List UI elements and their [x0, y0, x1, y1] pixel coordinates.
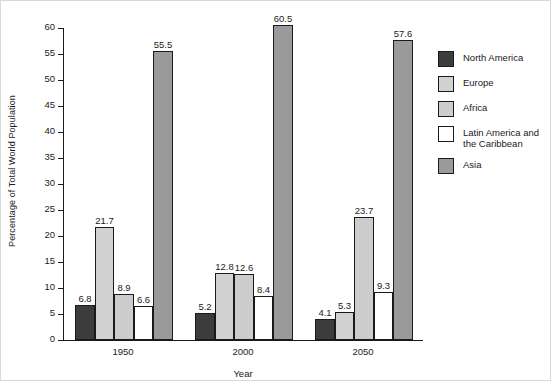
y-axis-tick-label: 30 [44, 177, 55, 188]
bar: 23.7 [354, 217, 374, 340]
plot-area: 051015202530354045505560 6.821.78.96.655… [63, 28, 423, 340]
bar-value-label: 4.1 [318, 307, 331, 318]
bar: 5.3 [335, 312, 355, 340]
y-axis-tick-mark [58, 106, 63, 107]
y-axis-tick-label: 50 [44, 73, 55, 84]
y-axis-tick-label: 5 [50, 307, 55, 318]
y-axis-tick-label: 35 [44, 151, 55, 162]
y-axis-tick-label: 0 [50, 333, 55, 344]
bar: 12.8 [215, 273, 235, 340]
y-axis-tick-label: 20 [44, 229, 55, 240]
y-axis-tick-label: 40 [44, 125, 55, 136]
bar: 4.1 [315, 319, 335, 340]
y-axis-tick-mark [58, 132, 63, 133]
bar: 12.6 [234, 274, 254, 340]
bar-value-label: 21.7 [95, 215, 114, 226]
legend-swatch [438, 51, 454, 67]
bar-value-label: 8.9 [117, 282, 130, 293]
legend-label: Africa [463, 101, 487, 113]
bar: 6.6 [134, 306, 154, 340]
legend-item: Africa [438, 101, 546, 117]
x-axis-title: Year [233, 368, 252, 379]
bar: 9.3 [374, 292, 394, 340]
y-axis-tick-mark [58, 184, 63, 185]
y-axis-tick-label: 60 [44, 21, 55, 32]
legend-label: North America [463, 51, 523, 63]
bar: 55.5 [153, 51, 173, 340]
bar: 8.4 [254, 296, 274, 340]
x-axis-tick-label: 2000 [232, 346, 253, 357]
legend-label: Asia [463, 158, 481, 170]
y-axis-tick-mark [58, 262, 63, 263]
legend-label: Latin America andthe Caribbean [463, 126, 539, 149]
y-axis-tick-mark [58, 158, 63, 159]
y-axis-tick-mark [58, 54, 63, 55]
bar: 6.8 [75, 305, 95, 340]
bars-layer: 6.821.78.96.655.55.212.812.68.460.54.15.… [64, 28, 423, 340]
y-axis-tick-mark [58, 28, 63, 29]
legend-item: Europe [438, 76, 546, 92]
bar-value-label: 6.6 [137, 294, 150, 305]
legend-item: Latin America andthe Caribbean [438, 126, 546, 149]
y-axis-tick-label: 25 [44, 203, 55, 214]
y-axis-tick-mark [58, 80, 63, 81]
legend-swatch [438, 158, 454, 174]
legend: North AmericaEuropeAfricaLatin America a… [438, 51, 546, 183]
y-axis-tick-mark [58, 340, 63, 341]
bar: 21.7 [95, 227, 115, 340]
y-axis-title-text: Percentage of Total World Population [7, 95, 17, 247]
bar-value-label: 12.6 [235, 262, 254, 273]
bar-value-label: 5.2 [198, 301, 211, 312]
bar-chart-figure: Percentage of Total World Population 051… [0, 0, 551, 381]
bar: 8.9 [114, 294, 134, 340]
legend-label: Europe [463, 76, 494, 88]
legend-item: North America [438, 51, 546, 67]
y-axis-tick-mark [58, 210, 63, 211]
bar-value-label: 60.5 [274, 13, 293, 24]
bar-value-label: 55.5 [154, 39, 173, 50]
legend-item: Asia [438, 158, 546, 174]
bar-value-label: 8.4 [257, 284, 270, 295]
y-axis-tick-mark [58, 236, 63, 237]
x-axis-tick-label: 2050 [352, 346, 373, 357]
y-axis-tick-label: 10 [44, 281, 55, 292]
y-axis-tick-label: 45 [44, 99, 55, 110]
bar-value-label: 12.8 [215, 261, 234, 272]
x-axis-line [63, 340, 423, 341]
y-axis-title: Percentage of Total World Population [4, 1, 20, 341]
bar-value-label: 57.6 [394, 28, 413, 39]
bar: 57.6 [393, 40, 413, 340]
bar-value-label: 9.3 [377, 280, 390, 291]
bar: 60.5 [273, 25, 293, 340]
y-axis-tick-label: 55 [44, 47, 55, 58]
bar-value-label: 6.8 [78, 293, 91, 304]
y-axis-tick-mark [58, 288, 63, 289]
x-axis-tick-label: 1950 [112, 346, 133, 357]
legend-swatch [438, 101, 454, 117]
legend-swatch [438, 76, 454, 92]
bar-value-label: 23.7 [355, 205, 374, 216]
legend-swatch [438, 126, 454, 142]
bar: 5.2 [195, 313, 215, 340]
y-axis-tick-mark [58, 314, 63, 315]
y-axis-tick-label: 15 [44, 255, 55, 266]
bar-value-label: 5.3 [338, 300, 351, 311]
